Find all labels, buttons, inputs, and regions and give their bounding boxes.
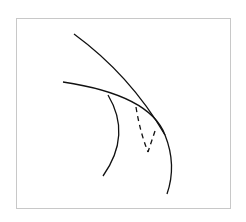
dashed-line-right [148,131,155,152]
middle-long-curve [63,82,172,194]
dashed-line-left [136,107,148,152]
upper-curve [74,34,165,135]
inner-arc [103,95,119,176]
diagram-canvas [0,0,246,222]
